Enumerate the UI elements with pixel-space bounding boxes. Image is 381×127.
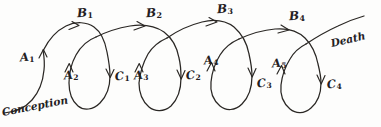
label-c2-subscript: 2	[195, 73, 200, 82]
label-b2-letter: B	[146, 7, 157, 20]
label-c4-letter: C	[326, 79, 336, 91]
label-b3-subscript: 3	[227, 7, 233, 16]
label-a5-subscript: 5	[281, 61, 286, 70]
label-b3-letter: B	[217, 3, 228, 16]
label-c4: C4	[327, 79, 342, 91]
label-c3-subscript: 3	[266, 81, 271, 90]
label-a3-letter: A	[133, 70, 143, 82]
label-c1-subscript: 1	[124, 74, 129, 83]
label-b3: B3	[217, 3, 233, 16]
label-a5-letter: A	[271, 58, 281, 70]
label-b2: B2	[146, 7, 162, 20]
label-c3: C3	[257, 78, 272, 90]
label-a1-subscript: 1	[29, 55, 34, 64]
label-b4-letter: B	[289, 10, 300, 23]
label-b1: B1	[77, 7, 93, 20]
b3-arrowhead	[206, 18, 217, 27]
label-b4-subscript: 4	[299, 14, 305, 23]
arc-b1-stroke	[44, 23, 111, 76]
label-c2-letter: C	[185, 70, 195, 82]
label-a3: A3	[134, 70, 149, 82]
label-a5: A5	[272, 58, 287, 70]
label-a4-letter: A	[203, 55, 213, 67]
label-a2: A2	[64, 70, 79, 82]
label-c4-subscript: 4	[336, 82, 341, 91]
label-b1-letter: B	[77, 7, 88, 20]
label-c1-letter: C	[114, 71, 124, 83]
label-c3-letter: C	[256, 78, 266, 90]
label-b2-subscript: 2	[156, 11, 162, 20]
sketch-strokes	[0, 0, 381, 127]
label-c2: C2	[186, 70, 201, 82]
label-a2-subscript: 2	[73, 73, 78, 82]
label-a2-letter: A	[63, 70, 73, 82]
loop3-stroke	[211, 39, 252, 110]
arc-b3-stroke	[167, 21, 252, 76]
label-b4: B4	[289, 10, 305, 23]
diagram-canvas: Conception A1 B1 A2 C1 B2 A3 C2 B3 A4 C3…	[0, 0, 381, 127]
label-a4: A4	[204, 55, 219, 67]
label-a4-subscript: 4	[213, 58, 218, 67]
label-b1-subscript: 1	[87, 11, 93, 20]
label-a3-subscript: 3	[143, 73, 148, 82]
label-a1-letter: A	[19, 52, 29, 64]
label-c1: C1	[115, 71, 130, 83]
label-a1: A1	[20, 52, 35, 64]
